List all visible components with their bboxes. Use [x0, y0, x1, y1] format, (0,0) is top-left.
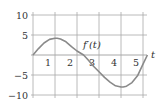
y-tick-label: −5: [14, 70, 28, 81]
x-tick-label: 4: [111, 57, 117, 68]
y-tick-label: 5: [22, 30, 28, 41]
y-tick-label: −10: [8, 90, 28, 101]
x-tick-label: 2: [67, 57, 73, 68]
curve-label: f′(t): [82, 39, 101, 50]
x-tick-label: 1: [45, 57, 51, 68]
x-axis-label: t: [151, 49, 156, 60]
x-tick-label: 5: [133, 57, 139, 68]
y-tick-label: 10: [16, 10, 28, 21]
chart-svg: 105−5−1012345 t f′(t): [0, 0, 166, 110]
